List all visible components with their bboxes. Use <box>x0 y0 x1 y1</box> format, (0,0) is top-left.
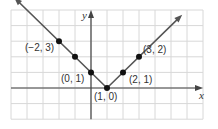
point-label: (2, 1) <box>129 74 152 85</box>
point-label: (0, 1) <box>61 73 84 84</box>
grid <box>11 10 203 119</box>
point-label: (3, 2) <box>143 44 166 55</box>
y-axis-label: y <box>81 9 87 21</box>
point-label: (−2, 3) <box>25 42 54 53</box>
y-axis-arrow-icon <box>88 10 94 18</box>
data-point <box>56 38 62 44</box>
graph: xy (−2, 3)(0, 1)(1, 0)(2, 1)(3, 2) <box>0 0 218 129</box>
data-point <box>120 69 126 75</box>
point-label: (1, 0) <box>94 91 117 102</box>
data-point <box>72 54 78 60</box>
data-point <box>136 54 142 60</box>
x-axis-label: x <box>198 89 204 101</box>
data-point <box>88 69 94 75</box>
